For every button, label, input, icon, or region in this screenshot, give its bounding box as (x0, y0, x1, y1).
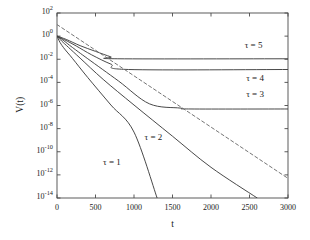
y-axis-title: V(t) (16, 84, 26, 124)
y-tick-label: 100 (42, 31, 53, 39)
curve-label-5: τ = 5 (237, 41, 271, 50)
curve-label-1: τ = 1 (95, 158, 129, 167)
x-tick-label: 2000 (193, 204, 229, 212)
x-tick-label: 1000 (116, 204, 152, 212)
x-tick-label: 1500 (155, 204, 191, 212)
y-tick-label: 10-12 (37, 170, 53, 178)
x-tick-label: 2500 (232, 204, 268, 212)
x-tick-label: 0 (39, 204, 75, 212)
y-tick-label: 10-2 (40, 54, 53, 62)
data-curves (57, 25, 288, 198)
x-tick-label: 3000 (270, 204, 306, 212)
y-tick-label: 10-6 (40, 101, 53, 109)
curve-tau-2 (57, 36, 257, 198)
curve-tau-1 (57, 36, 157, 198)
y-tick-label: 10-8 (40, 124, 53, 132)
y-tick-label: 10-14 (37, 193, 53, 201)
curve-label-3: τ = 3 (238, 90, 272, 99)
curve-label-2: τ = 2 (136, 133, 170, 142)
y-tick-label: 10-4 (40, 77, 53, 85)
y-tick-label: 102 (42, 8, 53, 16)
curve-label-4: τ = 4 (238, 74, 272, 83)
figure-container: 10210010-210-410-610-810-1010-1210-14 05… (0, 0, 310, 240)
x-tick-label: 500 (78, 204, 114, 212)
x-axis-title: t (153, 220, 193, 230)
y-tick-label: 10-10 (37, 147, 53, 155)
